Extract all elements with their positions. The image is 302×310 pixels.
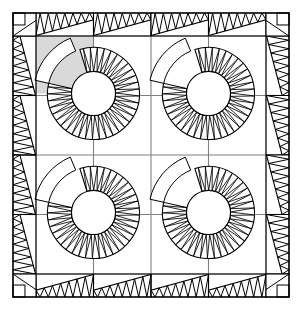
quilt-diagram-root [0,0,302,310]
corner-bottom-left [13,274,36,297]
corner-top-left [13,13,36,36]
motif-center-circle [187,72,231,116]
corner-bottom-right [266,274,289,297]
motif-center-circle [187,191,231,235]
motif-center-circle [72,191,116,235]
quilt-canvas [0,0,302,310]
motif-center-circle [72,72,116,116]
corner-top-right [266,13,289,36]
